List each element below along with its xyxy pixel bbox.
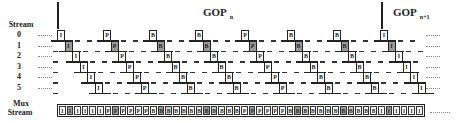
timeline-dash [151, 82, 156, 84]
stair-line [273, 93, 295, 95]
mux-frame-b: B [158, 106, 165, 115]
timeline-dash [289, 82, 294, 84]
timeline-dash [182, 61, 187, 63]
timeline-dash [259, 40, 264, 42]
timeline-dash [305, 40, 310, 42]
mux-frame-p: P [256, 106, 263, 115]
mux-frame-i: I [67, 106, 74, 115]
mux-frame-b: B [165, 106, 172, 115]
timeline-dash [325, 51, 330, 53]
timeline-dash [410, 40, 415, 42]
row-continuation-dots [426, 46, 440, 47]
mux-frame-b: B [211, 106, 218, 115]
timeline-dash [263, 93, 268, 95]
timeline-dash [328, 72, 333, 74]
timeline-dash [286, 61, 291, 63]
timeline-dash [371, 51, 376, 53]
timeline-dash [389, 93, 394, 95]
stream-row-label: 5 [14, 84, 24, 92]
stair-line [135, 93, 157, 95]
timeline-dash [251, 93, 256, 95]
timeline-dash [217, 93, 222, 95]
timeline-dash [75, 40, 80, 42]
mux-frame-b: B [363, 106, 370, 115]
mux-label-line2: Stream [2, 109, 38, 117]
timeline-dash [190, 72, 195, 74]
mux-frame-i: I [97, 106, 104, 115]
mux-stream-bar: IIIIIIPPPPPPBBBBBBBBBBBBPPPPPPBBBBBBBBBB… [57, 104, 425, 117]
stair-line [181, 93, 203, 95]
timeline-dash [141, 51, 146, 53]
mux-frame-b: B [287, 106, 294, 115]
stair-line [319, 93, 341, 95]
timeline-dash [121, 40, 126, 42]
timeline-dash [133, 40, 138, 42]
timeline-dash [105, 82, 110, 84]
mux-frame-b: B [188, 106, 195, 115]
mux-frame-p: P [105, 106, 112, 115]
mux-frame-p: P [249, 106, 256, 115]
timeline-dash [366, 61, 371, 63]
timeline-dash [294, 72, 299, 74]
timeline-dash [205, 93, 210, 95]
timeline-dash [297, 93, 302, 95]
mux-frame-i: I [408, 106, 415, 115]
mux-frame-i: I [82, 106, 89, 115]
row-leader-dots [38, 35, 52, 36]
stream-header-label: Stream [4, 21, 38, 29]
stream-row-label: 0 [14, 31, 24, 39]
timeline-dash [83, 51, 88, 53]
stream-row-label: 4 [14, 73, 24, 81]
timeline-dash [301, 82, 306, 84]
timeline-dash [374, 72, 379, 74]
timeline-dash [87, 40, 92, 42]
row-leader-dots [38, 88, 52, 89]
mux-frame-b: B [226, 106, 233, 115]
mux-frame-b: B [150, 106, 157, 115]
timeline-dash [197, 82, 202, 84]
gop-n-divider [57, 2, 59, 29]
stair-line [227, 93, 249, 95]
stair-line [412, 93, 434, 95]
timeline-dash [255, 82, 260, 84]
timeline-dash [129, 51, 134, 53]
timeline-dash [381, 82, 386, 84]
mux-frame-b: B [302, 106, 309, 115]
mux-frame-p: P [272, 106, 279, 115]
timeline-dash [136, 61, 141, 63]
mux-frame-i: I [401, 106, 408, 115]
timeline-dash [347, 82, 352, 84]
mux-frame-b: B [325, 106, 332, 115]
timeline-dash [110, 72, 115, 74]
timeline-dash [401, 93, 406, 95]
row-continuation-dots [426, 88, 440, 89]
mux-frame-b: B [370, 106, 377, 115]
stream-row-label: 2 [14, 52, 24, 60]
row-continuation-dots [426, 35, 440, 36]
row-continuation-dots [426, 56, 440, 57]
mux-frame-b: B [340, 106, 347, 115]
timeline-dash [53, 93, 58, 95]
timeline-dash [313, 51, 318, 53]
timeline-dash [98, 72, 103, 74]
timeline-dash [228, 61, 233, 63]
timeline-dash [159, 93, 164, 95]
row-leader-dots [38, 46, 52, 47]
stream-row-label: 3 [14, 63, 24, 71]
timeline-dash [279, 51, 284, 53]
timeline-dash [53, 72, 58, 74]
timeline-dash [418, 51, 423, 53]
mux-continuation-dots [430, 112, 450, 113]
timeline-dash [53, 61, 58, 63]
row-continuation-dots [426, 77, 440, 78]
mux-frame-b: B [203, 106, 210, 115]
timeline-dash [274, 61, 279, 63]
timeline-dash [163, 82, 168, 84]
timeline-dash [386, 72, 391, 74]
mux-frame-p: P [279, 106, 286, 115]
timeline-dash [343, 93, 348, 95]
timeline-dash [413, 61, 418, 63]
timeline-dash [393, 82, 398, 84]
mux-frame-p: P [112, 106, 119, 115]
timeline-dash [363, 40, 368, 42]
